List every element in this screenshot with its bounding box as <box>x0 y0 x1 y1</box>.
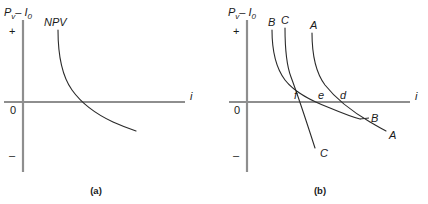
panel-a: Pv– I0 i + 0 – NPV (a) <box>4 6 193 196</box>
panel-a-caption: (a) <box>90 185 102 196</box>
panel-b-label-a-right: A <box>388 129 396 141</box>
panel-b-label-a-top: A <box>309 19 317 31</box>
panel-a-y-label-sub-zero: 0 <box>28 12 33 21</box>
panel-b-zero-label: 0 <box>234 104 240 116</box>
panel-a-y-label-minus-i: – I <box>14 6 27 18</box>
panel-b-label-b-top: B <box>268 16 275 28</box>
panel-b-caption: (b) <box>314 185 326 196</box>
panel-b-x-axis-label: i <box>415 90 418 102</box>
panel-a-zero-label: 0 <box>10 104 16 116</box>
panel-b-minus-label: – <box>233 149 240 161</box>
panel-b-label-c-top: C <box>281 14 289 26</box>
panel-b-plus-label: + <box>233 25 239 37</box>
panel-b-label-b-right: B <box>371 112 378 124</box>
panel-a-plus-label: + <box>9 25 15 37</box>
panel-b: Pv– I0 i + 0 – B C A f e d <box>228 6 418 196</box>
panel-b-label-d: d <box>340 89 347 101</box>
panel-b-y-axis-label: Pv– I0 <box>228 6 257 21</box>
panel-b-curve-c <box>285 28 315 148</box>
panel-b-label-e: e <box>318 89 324 101</box>
figure-container: Pv– I0 i + 0 – NPV (a) Pv– I0 <box>0 0 428 204</box>
panel-a-minus-label: – <box>9 149 16 161</box>
panel-a-x-axis-label: i <box>190 90 193 102</box>
panel-a-npv-curve <box>58 30 136 131</box>
panel-b-label-c-bottom: C <box>320 147 328 159</box>
panel-b-y-label-sub-zero: 0 <box>252 12 257 21</box>
npv-profiles-figure: Pv– I0 i + 0 – NPV (a) Pv– I0 <box>0 0 428 204</box>
panel-b-y-label-minus-i: – I <box>238 6 251 18</box>
panel-a-npv-label: NPV <box>44 16 68 28</box>
panel-b-leader-b <box>360 118 369 119</box>
panel-a-y-axis-label: Pv– I0 <box>4 6 33 21</box>
